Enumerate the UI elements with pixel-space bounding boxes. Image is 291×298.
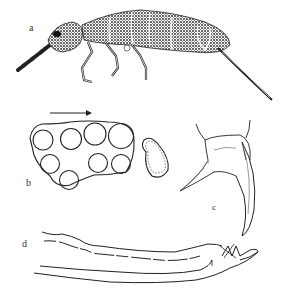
- scientific-figure: a b: [0, 0, 291, 298]
- panel-c-claw: [180, 120, 255, 236]
- panel-label-b: b: [26, 177, 31, 188]
- figure-drawing: a b: [0, 0, 291, 298]
- panel-label-c: c: [212, 202, 216, 212]
- panel-label-a: a: [29, 22, 34, 33]
- panel-d-mucro: [34, 232, 258, 283]
- panel-a-insect: [18, 10, 272, 100]
- arrow-right-icon: [86, 110, 92, 116]
- panel-label-d: d: [22, 238, 27, 249]
- panel-b-ocelli: [30, 110, 168, 190]
